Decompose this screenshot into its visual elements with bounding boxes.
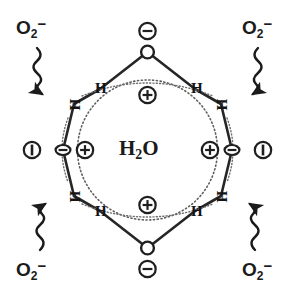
wavy-arrow-bottom-left [37, 204, 46, 250]
center-formula-h: H [119, 136, 135, 160]
superoxide-br-o: O [242, 259, 257, 280]
superoxide-tl-sup: − [37, 15, 46, 32]
atom-H-lower-right: H [214, 191, 229, 203]
center-formula-h2o: H2O [119, 136, 159, 163]
atom-H-bottom-left: H [95, 204, 107, 219]
superoxide-br-sup: − [263, 257, 272, 274]
diagram-canvas: H2O H H H H H H H H O2− O2− O2− O2− [0, 0, 295, 296]
wavy-arrow-top-left [34, 48, 43, 94]
superoxide-bl-sup: − [37, 257, 46, 274]
atom-H-bottom-right: H [191, 204, 203, 219]
label-superoxide-bottom-right: O2− [242, 258, 272, 282]
superoxide-bl-o: O [16, 259, 31, 280]
oxygen-vertex-bottom [141, 242, 154, 255]
superoxide-tr-o: O [242, 17, 257, 38]
label-superoxide-bottom-left: O2− [16, 258, 46, 282]
atom-H-lower-left: H [67, 191, 82, 203]
wavy-arrow-bottom-right [250, 204, 259, 250]
superoxide-tl-o: O [16, 17, 31, 38]
label-superoxide-top-left: O2− [16, 16, 46, 40]
superoxide-tr-sup: − [263, 15, 272, 32]
atom-H-upper-right: H [214, 99, 229, 111]
oxygen-vertex-top [141, 46, 154, 59]
label-superoxide-top-right: O2− [242, 16, 272, 40]
atom-H-top-left: H [95, 81, 107, 96]
atom-H-upper-left: H [67, 99, 82, 111]
atom-H-top-right: H [191, 81, 203, 96]
wavy-arrow-top-right [253, 48, 262, 94]
center-formula-o: O [142, 136, 158, 160]
